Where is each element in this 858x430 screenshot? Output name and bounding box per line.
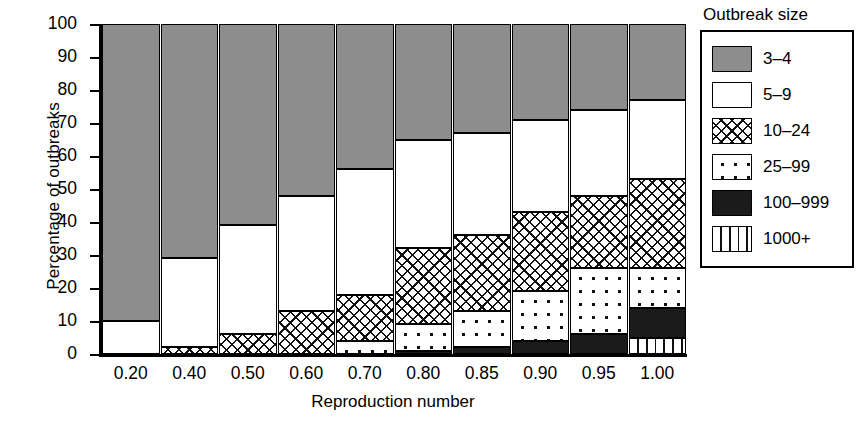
- legend-item: 25–99: [712, 149, 844, 185]
- y-tick: 40: [90, 222, 99, 224]
- bar-segment: [278, 196, 336, 312]
- bar-segment: [453, 347, 511, 354]
- legend-item-label: 10–24: [763, 121, 810, 141]
- legend-item: 5–9: [712, 77, 844, 113]
- bar-stack: [453, 24, 511, 354]
- bar-stack: [512, 24, 570, 354]
- x-tick-label: 0.85: [465, 363, 499, 384]
- y-tick: 60: [90, 156, 99, 158]
- legend-box: 3–45–910–2425–99100–9991000+: [700, 30, 854, 268]
- x-tick-label: 0.60: [289, 363, 323, 384]
- bar-segment: [629, 338, 687, 355]
- bar-segment: [395, 351, 453, 354]
- y-tick: 10: [90, 321, 99, 323]
- x-tick-label: 0.80: [406, 363, 440, 384]
- legend-item: 1000+: [712, 221, 844, 257]
- y-tick: 20: [90, 288, 99, 290]
- y-tick-label: 30: [58, 244, 77, 265]
- bar-stack: [570, 24, 628, 354]
- bar-segment: [102, 321, 160, 354]
- legend-title: Outbreak size: [703, 5, 854, 25]
- y-tick-label: 90: [58, 46, 77, 67]
- plot-area: Percentage of outbreaks 0102030405060708…: [0, 0, 690, 430]
- axes: 0102030405060708090100 0.200.400.500.600…: [99, 24, 687, 354]
- bar-segment: [512, 120, 570, 212]
- bar-segment: [453, 311, 511, 347]
- legend-item-label: 1000+: [763, 229, 811, 249]
- bar-stack: [219, 24, 277, 354]
- bar-segment: [629, 268, 687, 308]
- legend-item-label: 25–99: [763, 157, 810, 177]
- legend-item-label: 5–9: [763, 85, 791, 105]
- bar-segment: [336, 169, 394, 294]
- bar-segment: [570, 196, 628, 269]
- y-tick-label: 70: [58, 112, 77, 133]
- bar-stack: [161, 24, 219, 354]
- x-tick-label: 0.90: [523, 363, 557, 384]
- legend-item: 3–4: [712, 41, 844, 77]
- bar-group: [102, 24, 687, 354]
- bar-segment: [278, 24, 336, 196]
- legend-swatch: [712, 46, 752, 72]
- bar-segment: [161, 258, 219, 347]
- legend-item-label: 3–4: [763, 49, 791, 69]
- legend-swatch: [712, 82, 752, 108]
- legend: Outbreak size 3–45–910–2425–99100–999100…: [700, 5, 854, 268]
- y-tick-label: 20: [58, 277, 77, 298]
- bar-segment: [161, 347, 219, 354]
- y-tick-label: 0: [67, 343, 77, 364]
- bar-segment: [570, 268, 628, 334]
- bar-segment: [629, 308, 687, 338]
- y-tick: 30: [90, 255, 99, 257]
- bar-segment: [629, 24, 687, 100]
- x-tick-label: 0.20: [114, 363, 148, 384]
- x-tick-label: 0.70: [348, 363, 382, 384]
- bar-segment: [453, 133, 511, 235]
- bar-stack: [629, 24, 687, 354]
- bar-segment: [395, 140, 453, 249]
- bar-segment: [512, 291, 570, 341]
- legend-swatch: [712, 154, 752, 180]
- bar-stack: [336, 24, 394, 354]
- y-tick: 100: [90, 24, 99, 26]
- y-tick: 80: [90, 90, 99, 92]
- bar-segment: [570, 24, 628, 110]
- bar-segment: [278, 311, 336, 354]
- y-tick: 0: [90, 354, 99, 356]
- bar-segment: [629, 100, 687, 179]
- bar-segment: [512, 212, 570, 291]
- y-tick-label: 60: [58, 145, 77, 166]
- bar-stack: [395, 24, 453, 354]
- bar-segment: [102, 24, 160, 321]
- bar-segment: [453, 24, 511, 133]
- bar-segment: [512, 341, 570, 354]
- bar-segment: [512, 24, 570, 120]
- legend-item-label: 100–999: [763, 193, 829, 213]
- legend-swatch: [712, 190, 752, 216]
- legend-item: 10–24: [712, 113, 844, 149]
- bar-segment: [570, 334, 628, 354]
- bar-segment: [161, 24, 219, 258]
- bar-segment: [219, 334, 277, 354]
- x-tick-label: 0.40: [172, 363, 206, 384]
- x-tick-label: 1.00: [640, 363, 674, 384]
- bar-segment: [395, 324, 453, 350]
- x-tick-label: 0.95: [582, 363, 616, 384]
- bar-segment: [336, 295, 394, 341]
- y-tick: 90: [90, 57, 99, 59]
- bar-segment: [219, 24, 277, 225]
- y-tick: 70: [90, 123, 99, 125]
- legend-swatch: [712, 118, 752, 144]
- x-tick-label: 0.50: [231, 363, 265, 384]
- bar-segment: [629, 179, 687, 268]
- bar-segment: [395, 248, 453, 324]
- bar-segment: [219, 225, 277, 334]
- legend-item: 100–999: [712, 185, 844, 221]
- y-tick-label: 80: [58, 79, 77, 100]
- x-axis-title: Reproduction number: [100, 392, 686, 412]
- y-tick-label: 10: [58, 310, 77, 331]
- bar-segment: [336, 24, 394, 169]
- bar-segment: [570, 110, 628, 196]
- y-tick-label: 40: [58, 211, 77, 232]
- legend-swatch: [712, 226, 752, 252]
